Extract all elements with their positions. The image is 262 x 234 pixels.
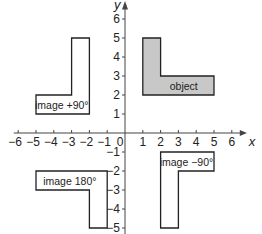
y-tick-label: −3 — [106, 183, 120, 197]
y-tick-label: −4 — [106, 202, 120, 216]
x-axis-arrow-icon — [240, 130, 247, 136]
y-tick-label: −1 — [106, 145, 120, 159]
x-tick-label: −4 — [44, 135, 58, 149]
label-image-plus-90: image +90° — [35, 99, 89, 111]
y-tick-label: 4 — [113, 50, 120, 64]
x-tick-label: 6 — [228, 135, 235, 149]
x-tick-label: −2 — [80, 135, 94, 149]
label-image-180: image 180° — [43, 175, 96, 187]
y-tick-label: 3 — [113, 69, 120, 83]
x-tick-label: 5 — [211, 135, 218, 149]
y-axis-label: y — [113, 0, 122, 12]
y-tick-label: −5 — [106, 221, 120, 234]
y-axis-arrow-icon — [122, 1, 128, 10]
y-tick-label: 1 — [113, 107, 120, 121]
x-axis-label: x — [248, 134, 256, 149]
label-object: object — [170, 80, 198, 92]
coordinate-plane: −6−5−4−3−2−11234560654321−1−2−3−4−5xy ob… — [0, 0, 262, 234]
y-tick-label: 2 — [113, 88, 120, 102]
x-tick-label: 3 — [175, 135, 182, 149]
x-tick-label: −6 — [8, 135, 22, 149]
x-tick-label: 4 — [193, 135, 200, 149]
x-tick-label: −5 — [26, 135, 40, 149]
x-tick-label: 2 — [157, 135, 164, 149]
label-image-minus-90: image −90° — [160, 156, 214, 168]
axes: −6−5−4−3−2−11234560654321−1−2−3−4−5xy — [8, 0, 255, 234]
x-tick-label: 1 — [139, 135, 146, 149]
rotation-diagram: −6−5−4−3−2−11234560654321−1−2−3−4−5xy ob… — [0, 0, 262, 234]
x-tick-label: −3 — [62, 135, 76, 149]
y-tick-label: 6 — [113, 12, 120, 26]
y-tick-label: −2 — [106, 164, 120, 178]
y-tick-label: 5 — [113, 31, 120, 45]
